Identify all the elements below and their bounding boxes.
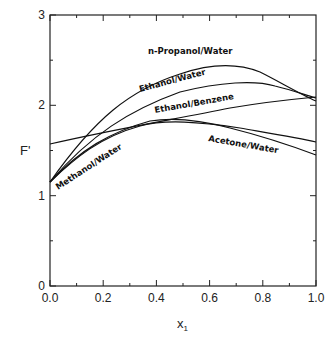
chart: 0.0 0.2 0.4 0.6 0.8 1.0 0 1 2 3 F' x1 n-…	[0, 0, 331, 340]
label-n-propanol-water: n-Propanol/Water	[148, 46, 233, 56]
x-tick-label: 0.8	[254, 291, 271, 305]
x-axis-title: x1	[177, 316, 189, 333]
y-tick-label: 0	[38, 279, 45, 293]
y-tick-label: 1	[38, 189, 45, 203]
y-tick-label: 3	[38, 8, 45, 22]
x-tick-label: 0.2	[95, 291, 112, 305]
label-ethanol-water: Ethanol/Water	[138, 66, 207, 94]
x-tick-label: 0.4	[148, 291, 165, 305]
x-tick-label: 1.0	[308, 291, 325, 305]
label-acetone-water: Acetone/Water	[208, 133, 280, 155]
y-tick-label: 2	[38, 98, 45, 112]
y-axis-title: F'	[20, 143, 30, 158]
x-tick-label: 0.6	[201, 291, 218, 305]
label-ethanol-benzene: Ethanol/Benzene	[154, 91, 235, 115]
x-tick-label: 0.0	[42, 291, 59, 305]
